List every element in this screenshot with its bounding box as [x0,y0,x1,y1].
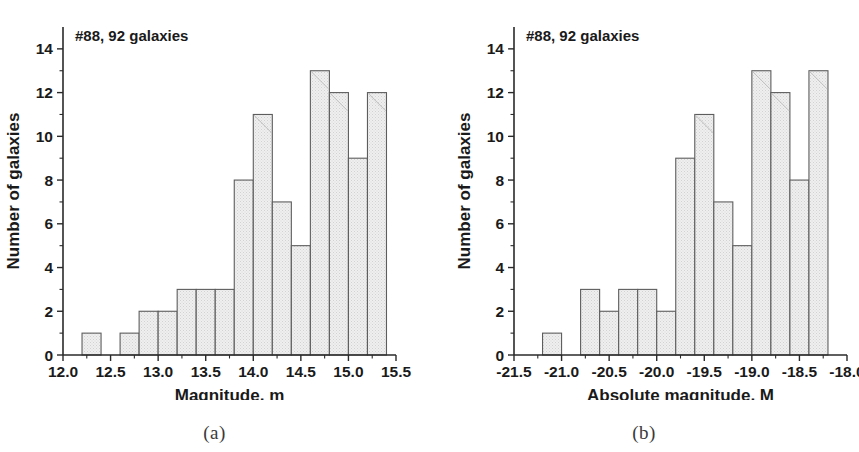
histogram-bar [543,333,562,355]
y-tick-label: 8 [495,172,504,189]
histogram-bar [215,289,234,355]
histogram-bar [291,246,310,355]
plot-annotation: #88, 92 galaxies [75,27,188,44]
y-axis-title: Number of galaxies [455,113,474,270]
histogram-bars [543,71,828,355]
y-tick-label: 14 [487,40,505,57]
histogram-bar [733,246,752,355]
histogram-bar [752,71,771,355]
histogram-bar [234,180,253,355]
x-axis-title: Magnitude, m [175,386,285,400]
panel-a: 12.012.513.013.514.014.515.015.502468101… [0,0,429,452]
y-tick-label: 0 [44,347,53,364]
histogram-bar [638,289,657,355]
histogram-bars [82,71,386,355]
histogram-bar [196,289,215,355]
x-tick-label: -21.5 [496,363,532,380]
histogram-a-plot: 12.012.513.013.514.014.515.015.502468101… [0,0,429,400]
panel-a-caption: (a) [0,422,443,444]
y-tick-label: 6 [44,215,53,232]
histogram-bar [177,289,196,355]
panel-b-caption: (b) [429,422,859,444]
histogram-bar [139,311,158,355]
plot-annotation: #88, 92 galaxies [526,27,639,44]
histogram-bar [348,158,367,355]
y-tick-label: 10 [487,128,504,145]
x-tick-label: -21.0 [544,363,579,380]
histogram-bar [581,289,600,355]
histogram-bar [771,93,790,355]
figure-two-histograms: 12.012.513.013.514.014.515.015.502468101… [0,0,859,452]
histogram-bar [310,71,329,355]
histogram-b-plot: -21.5-21.0-20.5-20.0-19.5-19.0-18.5-18.0… [429,0,859,400]
histogram-bar [253,114,272,355]
x-tick-label: -19.0 [734,363,769,380]
x-tick-label: 13.0 [143,363,173,380]
y-tick-label: 14 [36,40,54,57]
x-tick-label: -18.5 [782,363,818,380]
histogram-bar [790,180,809,355]
y-tick-label: 6 [495,215,504,232]
histogram-bar [600,311,619,355]
x-tick-label: -20.0 [639,363,674,380]
x-tick-label: 13.5 [191,363,222,380]
y-tick-label: 2 [495,303,504,320]
x-tick-label: 12.5 [95,363,126,380]
x-tick-label: 15.5 [381,363,412,380]
x-axis-title: Absolute magnitude, M [587,386,774,400]
histogram-bar [367,93,386,355]
y-tick-label: 12 [36,84,53,101]
histogram-bar [82,333,101,355]
x-tick-label: 15.0 [333,363,363,380]
y-tick-label: 0 [495,347,504,364]
histogram-bar [329,93,348,355]
histogram-bar [158,311,177,355]
histogram-bar [676,158,695,355]
histogram-bar [657,311,676,355]
y-tick-label: 10 [36,128,53,145]
histogram-bar [809,71,828,355]
panel-b: -21.5-21.0-20.5-20.0-19.5-19.0-18.5-18.0… [429,0,859,452]
histogram-bar [695,114,714,355]
y-tick-label: 4 [495,259,504,276]
y-tick-label: 8 [44,172,53,189]
x-tick-label: 14.5 [286,363,317,380]
histogram-bar [120,333,139,355]
y-tick-label: 4 [44,259,53,276]
y-axis-title: Number of galaxies [4,113,23,270]
x-tick-label: -19.5 [687,363,723,380]
histogram-bar [272,202,291,355]
x-tick-label: 12.0 [48,363,78,380]
x-tick-label: 14.0 [238,363,268,380]
histogram-bar [619,289,638,355]
x-tick-label: -18.0 [829,363,859,380]
y-tick-label: 2 [44,303,53,320]
histogram-bar [714,202,733,355]
x-tick-label: -20.5 [591,363,627,380]
y-tick-label: 12 [487,84,504,101]
